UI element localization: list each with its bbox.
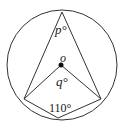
- angle-110-label: 110°: [49, 101, 72, 115]
- center-o-label: o: [60, 51, 66, 65]
- angle-p-label: p°: [54, 22, 67, 37]
- circle-angle-diagram: p° o q° 110°: [0, 0, 123, 130]
- chord-a-c: [62, 12, 101, 99]
- angle-q-label: q°: [56, 74, 68, 89]
